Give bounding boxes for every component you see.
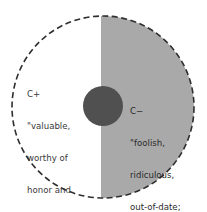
positive-evaluation-label: C+ "valuable, worthy of honor and admira… [27,68,77,212]
negative-line: "foolish, [130,138,193,149]
center-dark-circle [83,86,123,126]
negative-heading: C− [130,106,193,117]
evaluation-circle-diagram: C+ "valuable, worthy of honor and admira… [0,0,207,212]
positive-line: worthy of [27,153,77,164]
positive-line: "valuable, [27,121,77,132]
negative-line: ridiculous, [130,170,193,181]
positive-line: honor and [27,185,77,196]
negative-evaluation-label: C− "foolish, ridiculous, out-of-date; to… [130,85,193,212]
negative-line: out-of-date; [130,202,193,212]
positive-heading: C+ [27,89,77,100]
